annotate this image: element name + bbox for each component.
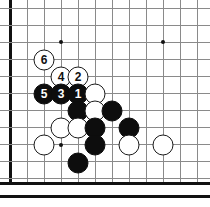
grid-line-vertical (180, 0, 181, 184)
grid-line-vertical (163, 0, 164, 184)
stone-white[interactable] (34, 135, 55, 156)
stone-black[interactable] (102, 101, 123, 122)
star-point (161, 40, 165, 44)
move-stone-6[interactable]: 6 (34, 50, 55, 71)
stone-white[interactable] (119, 135, 140, 156)
grid-line-horizontal (0, 178, 210, 179)
go-board: 642531 (0, 0, 210, 207)
move-number-label: 4 (58, 71, 65, 83)
grid-line-horizontal (0, 42, 210, 43)
grid-line-vertical (146, 0, 147, 184)
grid-line-horizontal (0, 161, 210, 162)
grid-line-vertical (27, 0, 28, 184)
move-number-label: 5 (41, 88, 48, 100)
star-point (59, 40, 63, 44)
stone-white[interactable] (153, 135, 174, 156)
grid-line-horizontal (0, 76, 210, 77)
grid-line-horizontal (0, 8, 210, 9)
grid-line-horizontal (0, 25, 210, 26)
grid-line-vertical (112, 0, 113, 184)
move-number-label: 1 (75, 88, 82, 100)
move-number-label: 2 (75, 71, 82, 83)
move-number-label: 3 (58, 88, 65, 100)
stone-black[interactable] (85, 135, 106, 156)
grid-line-vertical (129, 0, 130, 184)
grid-line-horizontal (0, 59, 210, 60)
star-point (59, 143, 63, 147)
grid-line-vertical (197, 0, 198, 184)
board-edge-bottom (0, 182, 210, 185)
stone-black[interactable] (68, 153, 89, 174)
board-edge-bottom (0, 195, 210, 198)
move-number-label: 6 (41, 54, 48, 66)
